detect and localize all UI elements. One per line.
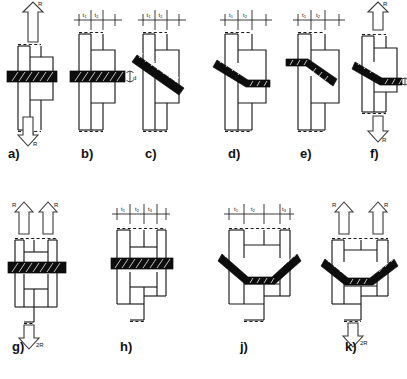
fastener-inclined [132, 53, 184, 95]
panel-label-b: b) [81, 146, 93, 161]
thickness-label-t2-d: t2 [243, 12, 248, 19]
load-label-up-right-k: R [384, 202, 389, 208]
plate-left [298, 34, 325, 130]
load-arrow-up [23, 2, 43, 42]
plate-middle [130, 230, 157, 320]
panel-k: R R [318, 192, 407, 342]
panel-g: R R [2, 192, 82, 342]
fastener-bent [352, 61, 402, 85]
plate-outer-right [264, 230, 290, 296]
load-label-up-left-k: R [332, 202, 337, 208]
panel-d: t1 t2 [212, 0, 292, 145]
figure-sheet: R R a) t1 t2 [0, 0, 407, 379]
thickness-label-t1-e: t1 [302, 12, 307, 19]
thickness-label-t2-e: t2 [316, 12, 321, 19]
thickness-label-t1-d: t1 [229, 12, 234, 19]
dimension-row-b [74, 10, 122, 30]
load-label-up-right-g: R [54, 202, 59, 208]
panel-f: R [352, 0, 407, 145]
panel-label-j: j) [240, 339, 248, 354]
plate-middle [24, 240, 48, 322]
panel-a: R R [0, 0, 75, 145]
panel-label-c: c) [145, 146, 157, 161]
dimension-row-e [293, 10, 345, 30]
panel-label-d: d) [228, 146, 240, 161]
plate-outer-left [15, 240, 34, 307]
panel-label-a: a) [8, 146, 20, 161]
load-label-down-g: 2R [36, 342, 44, 348]
thickness-label-t3-h: t3 [148, 206, 153, 213]
panel-label-k: k) [345, 339, 357, 354]
panel-label-g: g) [12, 339, 24, 354]
load-label-down-f: R [382, 137, 387, 143]
load-arrow-up-left [335, 202, 353, 234]
thickness-label-t2-h: t2 [135, 206, 140, 213]
load-label-down-a: R [33, 141, 38, 147]
panel-label-e: e) [300, 146, 312, 161]
thickness-label-t1-b: t1 [83, 12, 88, 19]
load-label-up-left-g: R [12, 202, 17, 208]
fastener-horizontal [7, 71, 57, 82]
thickness-label-t3-j: t3 [282, 206, 287, 213]
thickness-label-t2-c: t2 [159, 12, 164, 19]
panel-label-h: h) [120, 339, 132, 354]
panel-j: t1 t2 t3 [218, 192, 313, 342]
fastener-horizontal [70, 71, 125, 82]
load-arrow-up-left [15, 202, 33, 234]
thickness-label-t1-h: t1 [121, 206, 126, 213]
load-label-up-a: R [38, 1, 43, 7]
panel-label-f: f) [370, 146, 379, 161]
panel-h: t1 t2 t3 [108, 192, 198, 342]
fastener-vee [218, 253, 301, 284]
plate-outer-right [34, 240, 57, 307]
diameter-dimension-f [402, 78, 407, 85]
thickness-label-t1-c: t1 [147, 12, 152, 19]
thickness-label-t2-b: t2 [95, 12, 100, 19]
dimension-row-c [138, 10, 186, 30]
fastener-bent [213, 59, 270, 87]
fastener-horizontal [111, 258, 173, 269]
load-label-up-f: R [383, 1, 388, 7]
thickness-label-t1-j: t1 [234, 206, 239, 213]
plate-right [374, 36, 397, 112]
panel-c: t1 t2 [132, 0, 207, 145]
thickness-label-t2-j: t2 [251, 206, 256, 213]
fastener-horizontal [8, 262, 66, 273]
load-label-down-k: 2R [360, 340, 368, 346]
dimension-row-d [220, 10, 272, 30]
